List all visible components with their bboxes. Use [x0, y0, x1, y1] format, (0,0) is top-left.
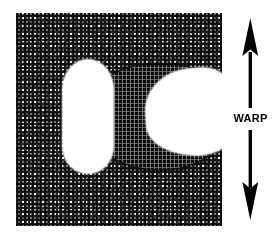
left-void-region: [63, 60, 113, 173]
figure-root: WARP: [0, 0, 273, 241]
woven-fabric-swatch: [16, 13, 222, 226]
warp-direction-label: WARP: [228, 112, 273, 124]
warp-direction-indicator: WARP: [228, 16, 273, 222]
